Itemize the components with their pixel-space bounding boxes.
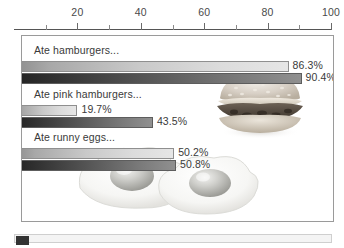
bar-value-label: 50.8% [180,158,210,170]
axis-major-tick [331,23,332,30]
axis-minor-tick [109,25,110,30]
bar[interactable] [21,117,153,128]
plot-area: Ate hamburgers...86.3%90.4%Ate pink hamb… [21,35,334,222]
bar[interactable] [21,61,289,72]
bar-group-label: Ate hamburgers... [34,44,119,56]
axis-tick-label: 60 [198,6,210,18]
axis-minor-tick [236,25,237,30]
scroll-track[interactable] [14,234,332,243]
bar[interactable] [21,73,302,84]
bar-value-label: 50.2% [178,146,208,158]
bar-value-label: 86.3% [293,59,323,71]
bar[interactable] [21,148,174,159]
bar-group-label: Ate pink hamburgers... [34,88,142,100]
axis-minor-tick [299,25,300,30]
bottom-scroll-strip[interactable] [0,233,344,245]
scroll-thumb[interactable] [16,236,29,245]
axis-tick-label: 20 [71,6,83,18]
bar[interactable] [21,160,176,171]
chart-x-axis: 20406080100 [0,0,344,36]
bar-value-label: 19.7% [81,103,111,115]
bar-value-label: 90.4% [306,71,334,83]
axis-minor-tick [46,25,47,30]
axis-major-tick [204,23,205,30]
axis-major-tick [77,23,78,30]
axis-major-tick [141,23,142,30]
bar-group-label: Ate runny eggs... [34,131,115,143]
bar-value-label: 43.5% [157,115,187,127]
axis-tick-label: 40 [135,6,147,18]
axis-tick-label: 80 [262,6,274,18]
axis-minor-tick [173,25,174,30]
axis-major-tick [268,23,269,30]
bar[interactable] [21,105,77,116]
axis-tick-label: 100 [322,6,340,18]
